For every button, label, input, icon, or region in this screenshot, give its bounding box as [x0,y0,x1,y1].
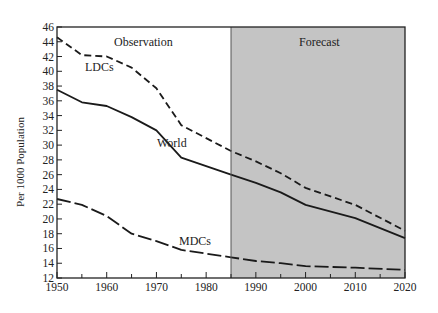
series-label-ldcs: LDCs [85,60,114,74]
y-tick-label: 20 [43,213,55,225]
y-tick-label: 24 [43,183,55,195]
x-tick-label: 2010 [344,281,367,293]
series-label-mdcs: MDCs [179,234,211,248]
y-tick-label: 46 [43,21,55,33]
chart: 121416182022242628303234363840424446 195… [0,0,438,313]
forecast-region [231,27,405,278]
y-tick-label: 42 [43,51,55,63]
y-tick-label: 18 [43,228,55,240]
y-tick-label: 32 [43,124,55,136]
y-tick-label: 22 [43,198,55,210]
x-tick-label: 2020 [394,281,417,293]
y-tick-label: 14 [43,257,55,269]
y-axis: 121416182022242628303234363840424446 [43,21,63,284]
y-tick-label: 38 [43,80,55,92]
series-label-world: World [157,136,187,150]
y-tick-label: 44 [43,36,55,48]
y-axis-title: Per 1000 Population [14,117,26,207]
x-tick-label: 1990 [244,281,267,293]
x-tick-label: 1980 [195,281,218,293]
y-tick-label: 16 [43,242,55,254]
y-tick-label: 34 [43,110,55,122]
y-tick-label: 28 [43,154,55,166]
x-tick-label: 1950 [46,281,69,293]
x-tick-label: 1970 [145,281,168,293]
y-tick-label: 26 [43,169,55,181]
forecast-label: Forecast [299,35,340,49]
y-tick-label: 30 [43,139,55,151]
y-tick-label: 36 [43,95,55,107]
x-tick-label: 2000 [294,281,317,293]
x-tick-label: 1960 [95,281,118,293]
line-chart-svg: 121416182022242628303234363840424446 195… [0,0,438,313]
observation-label: Observation [114,35,173,49]
y-tick-label: 40 [43,65,55,77]
